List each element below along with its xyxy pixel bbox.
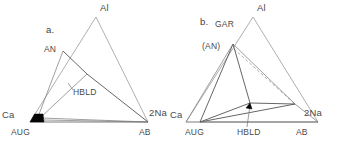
phase-diagram-svg: a. Al Ca 2Na AN HBLD AUG AB b. Al Ca 2Na [0,0,343,150]
panel-a-tieline-junction-2na [87,74,148,122]
panel-a-tag: a. [46,24,54,35]
panel-a-vertex-label-ca: Ca [2,109,15,120]
panel-a-base-label-ab: AB [139,127,151,137]
panel-b-phase-label-gar: GAR [215,19,234,29]
panel-b-tieline-gar-hbld [233,44,250,103]
panel-a-vertex-label-al: Al [100,2,109,13]
panel-a-phase-label-hbld: HBLD [73,87,96,97]
panel-b: b. Al Ca 2Na GAR (AN) AUG HBLD AB [170,2,323,137]
panel-b-base-label-aug: AUG [185,127,204,137]
panel-a-augite-field [30,114,44,122]
panel-b-tieline-hbld-ab [250,103,295,104]
panel-b-vertex-label-2na: 2Na [304,107,323,118]
panel-b-vertex-label-ca: Ca [170,109,183,120]
panel-b-vertex-label-al: Al [257,2,266,13]
panel-b-tieline-aug-hbld [200,103,250,122]
panel-b-dashed-join [234,49,296,105]
panel-b-base-label-hbld: HBLD [237,127,260,137]
panel-a-tieline-an-aug [38,51,63,117]
panel-b-tieline-gar-ca [186,44,233,122]
panel-a-phase-label-an: AN [44,44,56,54]
panel-a-vertex-label-2na: 2Na [149,107,168,118]
panel-a-base-label-aug: AUG [11,127,30,137]
panel-b-base-label-ab: AB [296,127,308,137]
panel-b-tieline-gar-aug [200,44,233,122]
panel-b-tieline-gar-ab [233,44,295,104]
figure-container: a. Al Ca 2Na AN HBLD AUG AB b. Al Ca 2Na [0,0,343,150]
panel-b-phase-label-an: (AN) [202,41,220,51]
panel-a: a. Al Ca 2Na AN HBLD AUG AB [2,2,168,137]
panel-b-tag: b. [200,16,208,27]
panel-a-tieline-an-junction [63,51,87,74]
